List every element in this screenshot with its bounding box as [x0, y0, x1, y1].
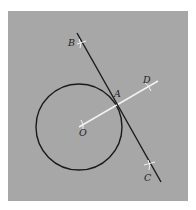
label-C: C: [144, 172, 152, 183]
tangent-diagram: B A D O C: [0, 0, 196, 210]
label-O: O: [79, 127, 87, 138]
label-A: A: [113, 88, 121, 99]
label-D: D: [142, 74, 151, 85]
label-B: B: [67, 37, 75, 48]
tangent-line-BC: [77, 33, 161, 182]
